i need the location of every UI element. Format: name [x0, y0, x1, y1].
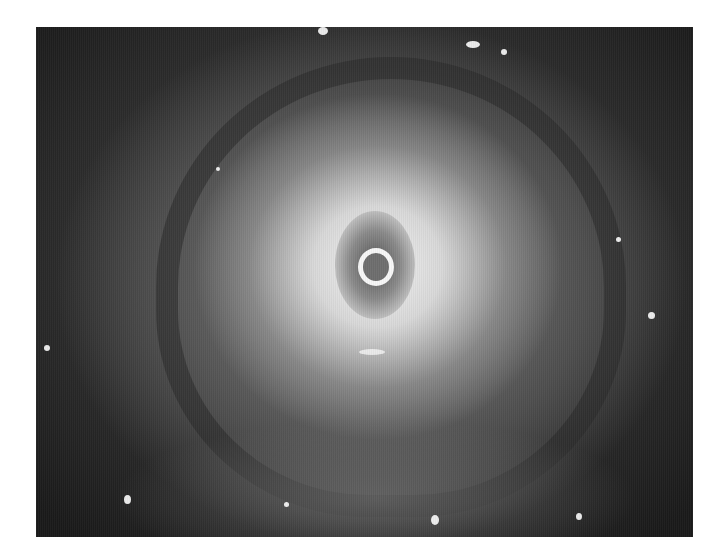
specular-highlight — [216, 167, 220, 171]
specular-highlight — [124, 495, 131, 504]
specular-highlight — [44, 345, 50, 351]
specular-highlight — [616, 237, 621, 242]
specular-highlight — [284, 502, 289, 507]
specular-highlight — [318, 27, 328, 35]
specular-highlight — [501, 49, 507, 55]
specular-highlight — [648, 312, 655, 319]
lower-tissue-folds — [116, 407, 636, 537]
specular-highlight — [359, 349, 385, 355]
endoscopic-photo — [36, 27, 693, 537]
specular-highlight — [576, 513, 582, 520]
lumen-wall — [156, 57, 626, 517]
specular-highlight — [431, 515, 439, 525]
central-ring — [335, 211, 415, 319]
central-opening — [358, 248, 394, 286]
specular-highlight — [466, 41, 480, 48]
